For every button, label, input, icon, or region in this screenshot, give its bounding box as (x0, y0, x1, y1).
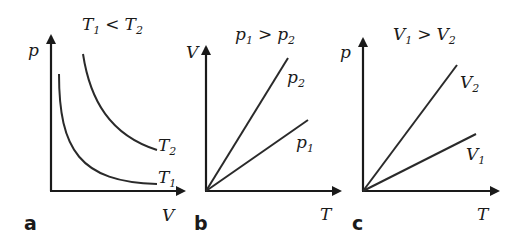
panel-letter-a: a (24, 212, 37, 234)
isotherm-t1-curve (59, 74, 157, 184)
x-axis-label: V (162, 205, 176, 225)
x-axis-label: T (320, 204, 333, 224)
isobar-p2-line (206, 58, 288, 191)
panel-letter-c: c (352, 212, 363, 234)
isochore-v1-line (363, 134, 476, 191)
line-label-v2: V2 (460, 72, 479, 95)
panel-c-title: V1>V2 (393, 24, 456, 47)
panel-b-title: p1>p2 (235, 24, 295, 47)
curve-label-t1: T1 (158, 167, 176, 190)
panel-c-isochores: V1>V2 p T V2 V1 c (340, 24, 498, 234)
x-axis-label: T (477, 204, 490, 224)
isobar-p1-line (206, 120, 308, 191)
line-label-p2: p2 (287, 67, 305, 90)
y-axis-label: p (28, 40, 39, 60)
isochore-v2-line (363, 65, 457, 191)
panel-a-title: T1<T2 (82, 14, 143, 37)
y-axis-label: V (186, 42, 200, 62)
gas-law-diagrams: T1<T2 p V T2 T1 a p1>p2 V T p2 p1 b V1>V… (0, 0, 522, 237)
panel-letter-b: b (194, 212, 208, 234)
curve-label-t2: T2 (158, 135, 176, 158)
y-axis-label: p (340, 42, 351, 62)
isotherm-t2-curve (83, 54, 157, 150)
line-label-p1: p1 (296, 132, 314, 155)
line-label-v1: V1 (466, 144, 485, 167)
panel-a-isotherms: T1<T2 p V T2 T1 a (24, 14, 184, 234)
panel-b-isobars: p1>p2 V T p2 p1 b (186, 24, 340, 234)
